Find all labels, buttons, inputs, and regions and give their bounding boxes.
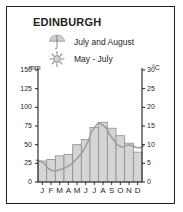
left-tick-label: 125 [14,85,32,92]
right-tick-label: 30 [147,66,163,73]
right-tick-label: 5 [147,159,163,166]
precipitation-bars [38,122,142,182]
right-tick-label: 15 [147,122,163,129]
bar-j-6 [90,127,99,182]
left-tick-label: 0 [14,178,32,185]
left-tick-label: 75 [14,122,32,129]
bar-n-10 [125,143,134,182]
right-tick-label: 10 [147,141,163,148]
left-tick-label: 50 [14,141,32,148]
left-tick-label: 25 [14,159,32,166]
bar-a-7 [99,122,108,182]
left-tick-label: 100 [14,103,32,110]
right-tick-label: 0 [147,178,163,185]
month-label-11: D [133,186,143,195]
right-tick-label: 25 [147,85,163,92]
bar-m-4 [73,145,82,182]
left-tick-label: 150 [14,66,32,73]
right-tick-label: 20 [147,103,163,110]
bar-o-9 [116,136,125,182]
bar-d-11 [133,152,142,182]
